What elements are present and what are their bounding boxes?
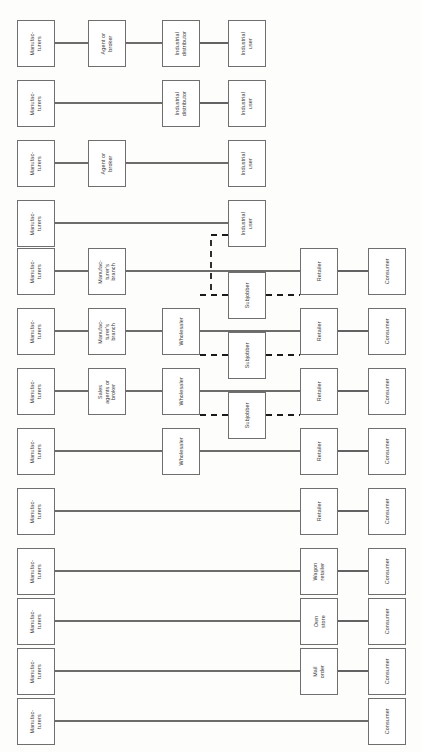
consumer-box-label: Consumer bbox=[384, 608, 391, 634]
manufacturers-box: Manufac- turers bbox=[17, 200, 55, 247]
manufacturers-box: Manufac- turers bbox=[17, 248, 55, 295]
manufacturers-branch-box-label: Manufac- turer's branch bbox=[97, 260, 117, 284]
industrial-user-box: Industrial user bbox=[228, 200, 266, 247]
retailer-box: Retailer bbox=[300, 308, 338, 355]
subjobber-box-label: Subjobber bbox=[244, 343, 251, 369]
retailer-box-label: Retailer bbox=[316, 502, 323, 522]
retailer-box: Retailer bbox=[300, 368, 338, 415]
industrial-user-box-label: Industrial user bbox=[240, 152, 253, 175]
subjobber-box: Subjobber bbox=[228, 332, 266, 379]
manufacturers-box-label: Manufac- turers bbox=[29, 92, 42, 116]
industrial-distributor-box: Industrial distributor bbox=[162, 80, 200, 127]
manufacturers-branch-box-label: Manufac- turer's branch bbox=[97, 320, 117, 344]
manufacturers-box: Manufac- turers bbox=[17, 428, 55, 475]
consumer-box-label: Consumer bbox=[384, 498, 391, 524]
consumer-box: Consumer bbox=[368, 698, 406, 745]
manufacturers-box: Manufac- turers bbox=[17, 140, 55, 187]
industrial-user-box: Industrial user bbox=[228, 20, 266, 67]
subjobber-box-label: Subjobber bbox=[244, 283, 251, 309]
consumer-box: Consumer bbox=[368, 248, 406, 295]
industrial-distributor-box-label: Industrial distributor bbox=[174, 91, 187, 116]
retailer-box: Retailer bbox=[300, 488, 338, 535]
manufacturers-box-label: Manufac- turers bbox=[29, 660, 42, 684]
manufacturers-box: Manufac- turers bbox=[17, 308, 55, 355]
industrial-distributor-box: Industrial distributor bbox=[162, 20, 200, 67]
manufacturers-box-label: Manufac- turers bbox=[29, 710, 42, 734]
manufacturers-box: Manufac- turers bbox=[17, 20, 55, 67]
agent-or-broker-box-label: Agent or broker bbox=[100, 33, 113, 55]
wholesaler-box: Wholesaler bbox=[162, 428, 200, 475]
industrial-user-box-label: Industrial user bbox=[240, 92, 253, 115]
consumer-box: Consumer bbox=[368, 428, 406, 475]
manufacturers-box: Manufac- turers bbox=[17, 698, 55, 745]
manufacturers-box-label: Manufac- turers bbox=[29, 560, 42, 584]
industrial-user-to-subjobber-dashed bbox=[211, 235, 228, 295]
wholesaler-box: Wholesaler bbox=[162, 368, 200, 415]
industrial-user-box: Industrial user bbox=[228, 80, 266, 127]
consumer-box: Consumer bbox=[368, 648, 406, 695]
manufacturers-box-label: Manufac- turers bbox=[29, 500, 42, 524]
sales-agents-or-broker-box-label: Sales agents or broker bbox=[97, 380, 117, 404]
manufacturers-box: Manufac- turers bbox=[17, 548, 55, 595]
wholesaler-box-label: Wholesaler bbox=[178, 317, 185, 345]
mail-order-box-label: Mail order bbox=[312, 665, 325, 678]
distribution-channels-diagram: Manufac- turersAgent or brokerIndustrial… bbox=[0, 0, 421, 752]
agent-or-broker-box-label: Agent or broker bbox=[100, 153, 113, 175]
consumer-box: Consumer bbox=[368, 548, 406, 595]
wholesaler-box: Wholesaler bbox=[162, 308, 200, 355]
manufacturers-box: Manufac- turers bbox=[17, 368, 55, 415]
connector-layer bbox=[0, 0, 421, 752]
consumer-box-label: Consumer bbox=[384, 558, 391, 584]
industrial-user-box: Industrial user bbox=[228, 140, 266, 187]
retailer-box-label: Retailer bbox=[316, 262, 323, 282]
consumer-box: Consumer bbox=[368, 598, 406, 645]
agent-or-broker-box: Agent or broker bbox=[88, 20, 126, 67]
industrial-user-box-label: Industrial user bbox=[240, 32, 253, 55]
consumer-box-label: Consumer bbox=[384, 658, 391, 684]
consumer-box-label: Consumer bbox=[384, 438, 391, 464]
own-store-box: Own store bbox=[300, 598, 338, 645]
retailer-box: Retailer bbox=[300, 428, 338, 475]
retailer-box-label: Retailer bbox=[316, 442, 323, 462]
retailer-box-label: Retailer bbox=[316, 382, 323, 402]
consumer-box: Consumer bbox=[368, 488, 406, 535]
dashed-connectors-group bbox=[200, 235, 300, 415]
manufacturers-branch-box: Manufac- turer's branch bbox=[88, 248, 126, 295]
wholesaler-box-label: Wholesaler bbox=[178, 437, 185, 465]
consumer-box: Consumer bbox=[368, 368, 406, 415]
manufacturers-box-label: Manufac- turers bbox=[29, 440, 42, 464]
agent-or-broker-box: Agent or broker bbox=[88, 140, 126, 187]
consumer-box-label: Consumer bbox=[384, 318, 391, 344]
manufacturers-box: Manufac- turers bbox=[17, 80, 55, 127]
mail-order-box: Mail order bbox=[300, 648, 338, 695]
sales-agents-or-broker-box: Sales agents or broker bbox=[88, 368, 126, 415]
retailer-box: Retailer bbox=[300, 248, 338, 295]
subjobber-box: Subjobber bbox=[228, 272, 266, 319]
consumer-box-label: Consumer bbox=[384, 708, 391, 734]
manufacturers-box-label: Manufac- turers bbox=[29, 320, 42, 344]
consumer-box: Consumer bbox=[368, 308, 406, 355]
manufacturers-box-label: Manufac- turers bbox=[29, 380, 42, 404]
consumer-box-label: Consumer bbox=[384, 378, 391, 404]
subjobber-box: Subjobber bbox=[228, 392, 266, 439]
industrial-distributor-box-label: Industrial distributor bbox=[174, 31, 187, 56]
manufacturers-box: Manufac- turers bbox=[17, 488, 55, 535]
wholesaler-box-label: Wholesaler bbox=[178, 377, 185, 405]
manufacturers-box-label: Manufac- turers bbox=[29, 152, 42, 176]
subjobber-box-label: Subjobber bbox=[244, 403, 251, 429]
manufacturers-box-label: Manufac- turers bbox=[29, 32, 42, 56]
own-store-box-label: Own store bbox=[312, 615, 325, 628]
retailer-box-label: Retailer bbox=[316, 322, 323, 342]
consumer-box-label: Consumer bbox=[384, 258, 391, 284]
manufacturers-branch-box: Manufac- turer's branch bbox=[88, 308, 126, 355]
manufacturers-box-label: Manufac- turers bbox=[29, 260, 42, 284]
manufacturers-box: Manufac- turers bbox=[17, 648, 55, 695]
manufacturers-box: Manufac- turers bbox=[17, 598, 55, 645]
wagon-retailer-box-label: Wagon retailer bbox=[312, 563, 325, 581]
manufacturers-box-label: Manufac- turers bbox=[29, 212, 42, 236]
manufacturers-box-label: Manufac- turers bbox=[29, 610, 42, 634]
industrial-user-box-label: Industrial user bbox=[240, 212, 253, 235]
wagon-retailer-box: Wagon retailer bbox=[300, 548, 338, 595]
